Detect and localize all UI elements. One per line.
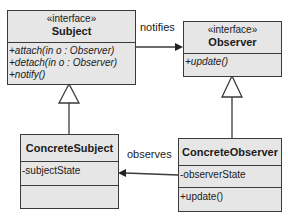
- arrowhead-icon: [175, 43, 183, 51]
- class-name: ConcreteSubject: [21, 142, 118, 155]
- attributes-section: -observerState: [179, 166, 281, 188]
- attribute: -observerState: [179, 169, 281, 181]
- class-subject[interactable]: «interface» Subject +attach(in o : Obser…: [7, 10, 136, 85]
- stereotype-label: «interface»: [8, 13, 135, 25]
- class-name: Observer: [184, 36, 281, 49]
- class-concrete-observer[interactable]: ConcreteObserver -observerState +update(…: [178, 138, 282, 212]
- class-header: «interface» Observer: [184, 22, 281, 54]
- class-header: ConcreteSubject: [21, 135, 118, 162]
- arrowhead-icon: [118, 169, 126, 177]
- operations-section: +update(): [179, 188, 281, 203]
- class-name: ConcreteObserver: [179, 146, 281, 159]
- stereotype-label: «interface»: [184, 24, 281, 36]
- class-name: Subject: [8, 25, 135, 38]
- subject-generalization: [59, 84, 79, 134]
- operations-section: [21, 186, 118, 207]
- class-header: ConcreteObserver: [179, 139, 281, 166]
- operations-section: +update(): [184, 54, 281, 68]
- operation: +notify(): [8, 69, 135, 81]
- inheritance-triangle-icon: [222, 76, 242, 97]
- inheritance-triangle-icon: [59, 84, 79, 103]
- class-header: «interface» Subject: [8, 11, 135, 43]
- operations-section: +attach(in o : Observer) +detach(in o : …: [8, 43, 135, 81]
- attributes-section: -subjectState: [21, 162, 118, 186]
- observes-association: [118, 169, 178, 177]
- class-concrete-subject[interactable]: ConcreteSubject -subjectState: [20, 134, 119, 209]
- attribute: -subjectState: [21, 165, 118, 177]
- observer-generalization: [222, 76, 242, 138]
- notifies-label: notifies: [140, 21, 175, 33]
- observes-label: observes: [127, 148, 172, 160]
- operation: +attach(in o : Observer): [8, 45, 135, 57]
- operation: +update(): [184, 56, 281, 68]
- class-observer[interactable]: «interface» Observer +update(): [183, 21, 282, 77]
- operation: +update(): [179, 191, 281, 203]
- operation: +detach(in o : Observer): [8, 57, 135, 69]
- notifies-association: [135, 43, 183, 51]
